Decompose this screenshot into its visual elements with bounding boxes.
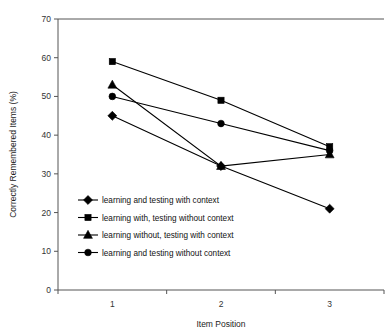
y-tick-label: 50 [42,91,52,101]
data-point-diamond [325,204,334,213]
y-tick-label: 70 [42,14,52,24]
y-tick-label: 0 [46,285,51,295]
y-tick-label: 60 [42,53,52,63]
legend-label-2: learning without, testing with context [102,231,234,240]
data-point-circle [109,93,116,100]
data-point-diamond [108,111,117,120]
data-point-square [109,58,115,64]
y-tick-label: 20 [42,208,52,218]
data-point-circle [326,147,333,154]
x-tick-label: 1 [110,299,115,309]
legend-label-1: learning with, testing without context [102,214,234,223]
y-axis-title: Correctly Remembered Items (%) [8,91,18,218]
legend-marker-square [85,214,91,220]
chart-legend: learning and testing with contextlearnin… [78,196,234,258]
data-point-square [218,97,224,103]
legend-marker-diamond [84,196,93,205]
x-tick-label: 3 [327,299,332,309]
x-tick-label: 2 [219,299,224,309]
y-tick-label: 10 [42,246,52,256]
legend-marker-triangle [84,230,93,238]
data-point-circle [218,120,225,127]
chart-canvas: 010203040506070123Item PositionCorrectly… [0,0,392,334]
chart-figure: 010203040506070123Item PositionCorrectly… [0,0,392,334]
y-tick-label: 40 [42,130,52,140]
legend-label-0: learning and testing with context [102,196,220,205]
data-point-triangle [108,80,117,88]
legend-label-3: learning and testing without context [102,249,231,258]
x-axis-title: Item Position [196,319,245,329]
y-tick-label: 30 [42,169,52,179]
legend-marker-circle [85,249,92,256]
